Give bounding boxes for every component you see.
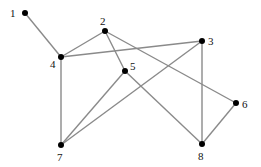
edge-6-8	[202, 103, 236, 144]
node-label-6: 6	[242, 98, 248, 110]
node-label-1: 1	[10, 7, 16, 19]
node-label-7: 7	[57, 151, 63, 163]
graph-diagram: 12345678	[0, 0, 261, 167]
node-8	[199, 141, 205, 147]
nodes-group	[22, 10, 239, 148]
node-label-8: 8	[198, 150, 204, 162]
labels-group: 12345678	[10, 7, 248, 163]
node-1	[22, 10, 28, 16]
node-label-5: 5	[130, 60, 136, 72]
node-3	[199, 38, 205, 44]
edge-5-7	[61, 71, 125, 145]
edge-2-6	[105, 31, 236, 103]
node-label-2: 2	[100, 15, 106, 27]
node-label-4: 4	[50, 58, 56, 70]
edge-4-3	[61, 41, 202, 57]
node-6	[233, 100, 239, 106]
node-7	[58, 142, 64, 148]
edge-3-7	[61, 41, 202, 145]
node-4	[58, 54, 64, 60]
node-5	[122, 68, 128, 74]
node-2	[102, 28, 108, 34]
edges-group	[25, 13, 236, 145]
node-label-3: 3	[208, 35, 214, 47]
edge-5-8	[125, 71, 202, 144]
edge-1-4	[25, 13, 61, 57]
